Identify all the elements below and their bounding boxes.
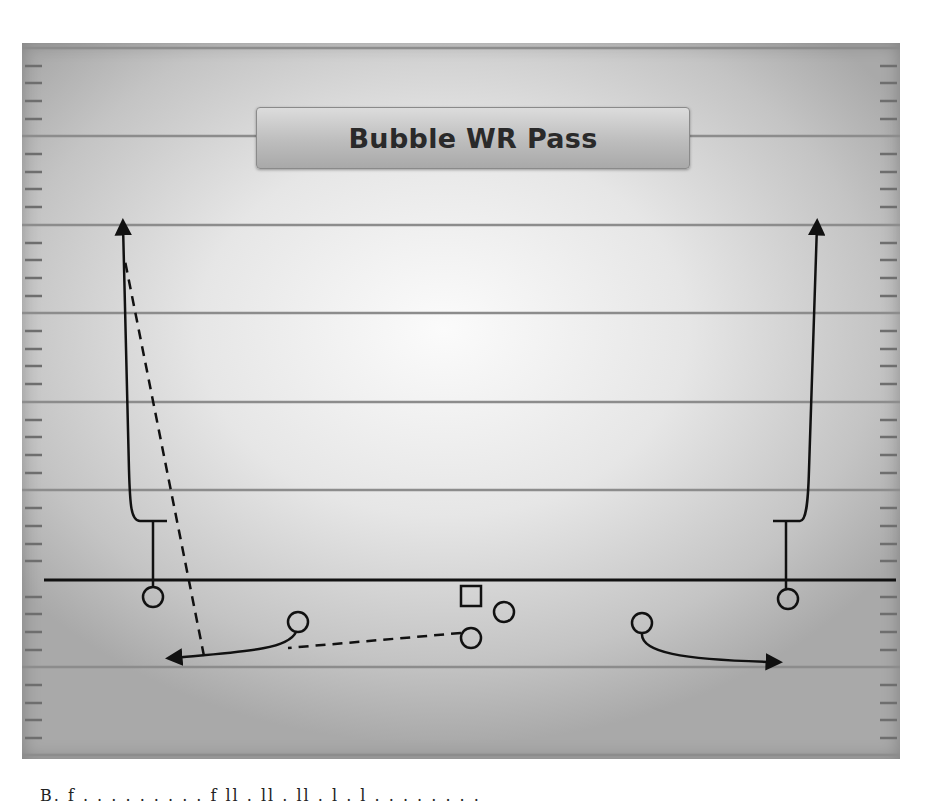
player-left-wr (143, 587, 163, 607)
players (143, 586, 798, 648)
player-center (461, 586, 481, 606)
player-right-wr (778, 589, 798, 609)
qb-pass (288, 633, 461, 648)
right-wr-route (773, 225, 817, 589)
left-slot-bubble-route (172, 632, 296, 658)
player-left-slot (288, 612, 308, 632)
play-title: Bubble WR Pass (348, 123, 597, 154)
player-right-slot (632, 613, 652, 633)
player-back (494, 602, 514, 622)
player-qb (461, 628, 481, 648)
caption-text: B. f . . . . . . . . . f ll . ll . ll . … (40, 786, 481, 805)
right-slot-bubble-route (642, 633, 776, 662)
title-banner: Bubble WR Pass (256, 107, 690, 169)
